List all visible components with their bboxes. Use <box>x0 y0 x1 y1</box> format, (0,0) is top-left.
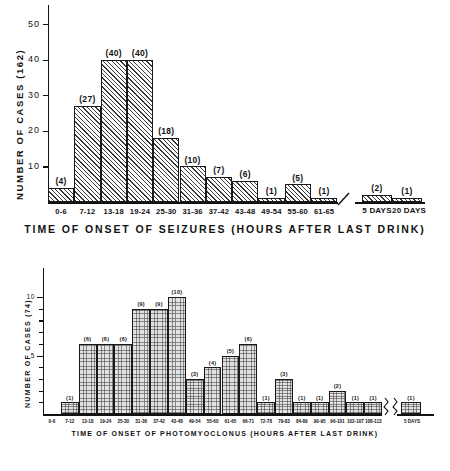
x-axis-line-photomyoclonus-break-segment <box>397 414 434 416</box>
bar-photo-72-78[interactable] <box>257 402 275 414</box>
x-axis-line-seizures <box>48 202 338 204</box>
bar-label-photo-37-42: (9) <box>155 301 163 307</box>
bar-photo-25-30[interactable] <box>114 344 132 414</box>
x-tick-label-photo-10: 61-65 <box>225 419 237 424</box>
bar-seizures-5-days[interactable] <box>362 195 392 202</box>
x-tick-label-photo-17: 102-107 <box>347 419 364 424</box>
x-tick-label-photo-6: 37-42 <box>153 419 165 424</box>
x-tick-label-seizures-8: 49-54 <box>261 207 281 216</box>
bar-label-seizures-43-48: (6) <box>240 169 251 179</box>
bar-photo-108-113[interactable] <box>364 402 382 414</box>
bar-label-seizures-55-60: (5) <box>292 173 303 183</box>
axis-break-slash-icon <box>336 192 354 206</box>
bar-label-photo-79-83: (3) <box>280 371 288 377</box>
bar-photo-13-18[interactable] <box>79 344 97 414</box>
x-tick-label-photo-8: 49-54 <box>189 419 201 424</box>
y-tick-label-10: 10 <box>16 161 40 171</box>
bar-label-seizures-5-days: (2) <box>371 183 382 193</box>
x-axis-line-seizures-break-segment <box>355 202 425 204</box>
bar-label-photo-13-18: (6) <box>84 336 92 342</box>
plot-area-photomyoclonus <box>43 264 382 414</box>
bar-label-photo-49-54: (3) <box>191 371 199 377</box>
x-tick-label-seizures-1: 7-12 <box>79 207 95 216</box>
bar-label-seizures-25-30: (18) <box>158 126 174 136</box>
chart-seizures: NUMBER OF CASES (162) 10 20 30 40 50 <box>0 0 450 240</box>
x-tick-label-photo-18: 108-113 <box>365 419 382 424</box>
bar-photo-7-12[interactable] <box>61 402 79 414</box>
bar-photo-90-95[interactable] <box>311 402 329 414</box>
bar-photo-5-days[interactable] <box>401 402 421 414</box>
bar-label-photo-102-107: (1) <box>352 395 360 401</box>
bar-photo-43-48[interactable] <box>168 297 186 414</box>
y-tick-label-20: 20 <box>16 125 40 135</box>
x-tick-label-photo-15: 90-95 <box>314 419 326 424</box>
bar-photo-61-65[interactable] <box>222 356 240 415</box>
bar-label-seizures-37-42: (7) <box>213 165 224 175</box>
x-tick-label-photo-12: 72-78 <box>260 419 272 424</box>
bar-seizures-55-60[interactable] <box>285 184 311 202</box>
bar-label-seizures-31-36: (10) <box>184 155 200 165</box>
bar-seizures-7-12[interactable] <box>74 106 100 202</box>
bar-seizures-25-30[interactable] <box>153 138 179 202</box>
bar-seizures-20-days[interactable] <box>392 198 422 202</box>
x-tick-label-seizures-9: 55-60 <box>288 207 308 216</box>
x-tick-label-photo-13: 79-83 <box>278 419 290 424</box>
bar-seizures-61-65[interactable] <box>311 198 337 202</box>
bar-photo-102-107[interactable] <box>346 402 364 414</box>
bar-photo-49-54[interactable] <box>186 379 204 414</box>
x-tick-label-photo-5-days: 5 DAYS <box>404 419 420 424</box>
plot-area-photomyoclonus-extended <box>399 264 433 414</box>
bar-seizures-31-36[interactable] <box>180 166 206 202</box>
x-axis-title-photomyoclonus: TIME OF ONSET OF PHOTOMYOCLONUS (HOURS A… <box>0 430 450 437</box>
x-tick-label-seizures-2: 13-18 <box>103 207 123 216</box>
bar-label-photo-43-48: (10) <box>171 289 182 295</box>
bar-label-seizures-0-6: (4) <box>55 176 66 186</box>
x-tick-label-seizures-6: 37-42 <box>209 207 229 216</box>
bar-label-photo-19-24: (6) <box>102 336 110 342</box>
x-tick-label-photo-2: 13-18 <box>82 419 94 424</box>
bar-seizures-19-24[interactable] <box>127 60 153 202</box>
bar-photo-96-101[interactable] <box>329 391 347 414</box>
x-tick-label-photo-16: 96-101 <box>330 419 344 424</box>
bar-seizures-0-6[interactable] <box>48 188 74 202</box>
bar-photo-79-83[interactable] <box>275 379 293 414</box>
x-tick-label-photo-4: 25-30 <box>117 419 129 424</box>
x-tick-label-photo-14: 84-89 <box>296 419 308 424</box>
x-tick-label-photo-0: 0-6 <box>49 419 56 424</box>
y-tick-label-40: 40 <box>16 54 40 64</box>
x-tick-label-seizures-3: 19-24 <box>130 207 150 216</box>
bar-label-photo-5-days: (1) <box>407 395 415 401</box>
bar-seizures-43-48[interactable] <box>232 181 258 202</box>
x-tick-label-photo-9: 55-60 <box>207 419 219 424</box>
x-tick-label-seizures-5-days: 5 DAYS <box>362 206 391 215</box>
y-tick-label-5: 5 <box>18 352 35 359</box>
x-tick-label-seizures-20-days: 20 DAYS <box>392 206 426 215</box>
x-tick-label-seizures-10: 61-65 <box>314 207 334 216</box>
x-tick-label-seizures-7: 43-48 <box>235 207 255 216</box>
bar-seizures-49-54[interactable] <box>258 198 284 202</box>
bar-seizures-37-42[interactable] <box>206 177 232 202</box>
bar-seizures-13-18[interactable] <box>101 60 127 202</box>
bar-photo-37-42[interactable] <box>150 309 168 414</box>
x-tick-label-photo-5: 31-36 <box>135 419 147 424</box>
x-tick-label-photo-7: 43-48 <box>171 419 183 424</box>
bar-photo-66-71[interactable] <box>239 344 257 414</box>
bar-photo-55-60[interactable] <box>204 367 222 414</box>
bar-photo-84-89[interactable] <box>293 402 311 414</box>
chart-photomyoclonus: NUMBER OF CASES (74) 5 10 <box>0 240 450 471</box>
x-tick-label-photo-11: 66-71 <box>242 419 254 424</box>
bar-label-photo-72-78: (1) <box>262 395 270 401</box>
x-tick-label-seizures-0: 0-6 <box>55 207 67 216</box>
bar-photo-19-24[interactable] <box>97 344 115 414</box>
bar-label-seizures-13-18: (40) <box>106 48 122 58</box>
x-tick-label-photo-1: 7-12 <box>65 419 74 424</box>
y-tick-label-30: 30 <box>16 90 40 100</box>
plot-area-seizures-extended <box>358 2 424 202</box>
bar-label-seizures-20-days: (1) <box>401 186 412 196</box>
x-tick-label-seizures-4: 25-30 <box>156 207 176 216</box>
bar-photo-31-36[interactable] <box>132 309 150 414</box>
bar-label-seizures-19-24: (40) <box>132 48 148 58</box>
x-tick-label-photo-3: 19-24 <box>100 419 112 424</box>
y-tick-label-50: 50 <box>16 19 40 29</box>
x-axis-title-seizures: TIME OF ONSET OF SEIZURES (HOURS AFTER L… <box>0 223 450 235</box>
